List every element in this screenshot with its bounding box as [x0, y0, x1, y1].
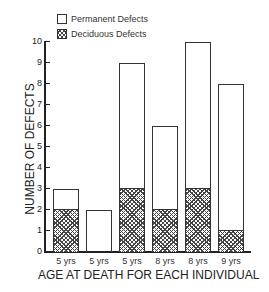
bar-segment-deciduous — [219, 230, 243, 252]
x-category-label: 5 yrs — [119, 256, 145, 266]
y-tick — [46, 188, 50, 189]
legend-swatch-deciduous — [57, 29, 67, 39]
x-category-label: 5 yrs — [86, 256, 112, 266]
y-axis-title: NUMBER OF DEFECTS — [23, 79, 37, 219]
legend-label-deciduous: Deciduous Defects — [71, 29, 147, 39]
x-category-label: 9 yrs — [218, 256, 244, 266]
y-tick — [46, 251, 50, 252]
bar-segment-deciduous — [186, 188, 210, 252]
y-tick — [46, 83, 50, 84]
x-category-label: 8 yrs — [152, 256, 178, 266]
bar-2 — [86, 210, 112, 252]
y-tick — [46, 62, 50, 63]
bar-segment-deciduous — [54, 209, 78, 252]
y-tick-label: 0 — [28, 246, 42, 256]
bar-3 — [119, 63, 145, 252]
y-tick — [46, 230, 50, 231]
x-axis-title: AGE AT DEATH FOR EACH INDIVIDUAL — [38, 268, 259, 282]
x-category-label: 8 yrs — [185, 256, 211, 266]
legend-swatch-permanent — [57, 14, 67, 24]
y-tick-label: 10 — [28, 36, 42, 46]
bar-segment-deciduous — [153, 209, 177, 252]
bar-1 — [53, 189, 79, 252]
bar-6 — [218, 84, 244, 252]
y-tick — [46, 125, 50, 126]
legend-label-permanent: Permanent Defects — [71, 14, 148, 24]
y-tick — [46, 146, 50, 147]
y-tick — [46, 167, 50, 168]
y-tick — [46, 41, 50, 42]
y-tick-label: 9 — [28, 57, 42, 67]
y-tick — [46, 209, 50, 210]
bar-5 — [185, 42, 211, 252]
y-tick — [46, 104, 50, 105]
bar-4 — [152, 126, 178, 252]
x-category-label: 5 yrs — [53, 256, 79, 266]
y-tick-label: 1 — [28, 225, 42, 235]
bar-segment-deciduous — [120, 188, 144, 252]
